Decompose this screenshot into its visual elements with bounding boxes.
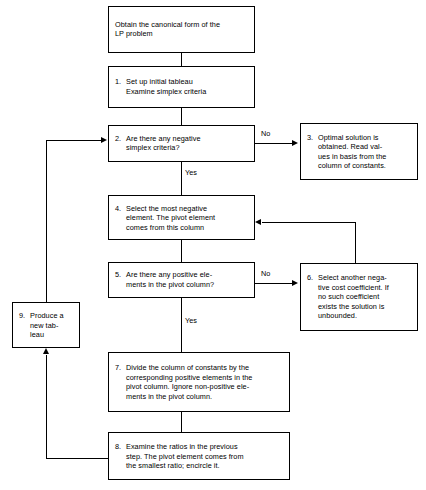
- edge-6-to-4-arrowhead: [255, 219, 261, 225]
- node-2-number: 2.: [115, 134, 121, 144]
- edge-start-to-1: [181, 53, 182, 66]
- edge-1-to-2: [181, 108, 182, 125]
- node-2-content: 2. Are there any negative simplex criter…: [109, 134, 254, 153]
- node-7[interactable]: 7. Divide the column of constants by the…: [108, 352, 290, 412]
- node-6-number: 6.: [307, 273, 313, 283]
- edge-label-yes-from-5: Yes: [185, 316, 197, 325]
- edge-4-to-5: [181, 240, 182, 262]
- edge-label-yes-from-2: Yes: [185, 168, 197, 177]
- node-1-content: 1. Set up initial tableau Examine simple…: [109, 77, 254, 96]
- edge-2-to-3: [255, 143, 293, 144]
- node-5-content: 5. Are there any positive ele- ments in …: [109, 270, 254, 289]
- node-7-number: 7.: [115, 363, 121, 373]
- node-8-content: 8. Examine the ratios in the previous st…: [109, 442, 289, 471]
- edge-8-to-9-arrowhead: [43, 348, 49, 354]
- node-5-text: Are there any positive ele- ments in the…: [115, 270, 248, 289]
- node-2-text: Are there any negative simplex criteria?: [115, 134, 248, 153]
- edge-6-to-4-horizontal: [262, 222, 356, 223]
- edge-9-to-2-arrowhead: [101, 137, 107, 143]
- node-7-content: 7. Divide the column of constants by the…: [109, 363, 289, 401]
- flowchart-canvas: Obtain the canonical form of the LP prob…: [0, 0, 426, 490]
- edge-2-to-4: [181, 162, 182, 195]
- node-3-text: Optimal solution is obtained. Read val- …: [307, 132, 411, 170]
- edge-label-no-from-5: No: [261, 269, 270, 278]
- node-start[interactable]: Obtain the canonical form of the LP prob…: [108, 6, 255, 53]
- edge-5-to-6-arrowhead: [292, 280, 298, 286]
- node-8[interactable]: 8. Examine the ratios in the previous st…: [108, 432, 290, 480]
- node-5-number: 5.: [115, 270, 121, 280]
- edge-5-to-6: [255, 283, 293, 284]
- node-9-text: Produce a new tab- leau: [19, 311, 73, 340]
- edge-9-to-2-horizontal: [46, 140, 102, 141]
- edge-5-to-7: [181, 298, 182, 352]
- node-2[interactable]: 2. Are there any negative simplex criter…: [108, 125, 255, 162]
- node-start-content: Obtain the canonical form of the LP prob…: [109, 20, 254, 39]
- edge-2-to-3-arrowhead: [292, 140, 298, 146]
- node-6-text: Select another nega- tive cost coefficie…: [307, 273, 411, 321]
- node-7-text: Divide the column of constants by the co…: [115, 363, 283, 401]
- node-9[interactable]: 9. Produce a new tab- leau: [12, 302, 80, 348]
- node-1-number: 1.: [115, 77, 121, 87]
- node-1-text: Set up initial tableau Examine simplex c…: [115, 77, 248, 96]
- node-6-content: 6. Select another nega- tive cost coeffi…: [301, 273, 417, 321]
- node-3-number: 3.: [307, 132, 313, 142]
- edge-6-to-4-vertical: [355, 222, 356, 263]
- edge-8-to-9-horizontal: [46, 458, 109, 459]
- node-9-number: 9.: [19, 311, 25, 321]
- node-4-text: Select the most negative element. The pi…: [115, 203, 248, 232]
- node-6[interactable]: 6. Select another nega- tive cost coeffi…: [300, 263, 418, 331]
- node-4-number: 4.: [115, 203, 121, 213]
- node-9-content: 9. Produce a new tab- leau: [13, 311, 79, 340]
- edge-9-to-2-vertical: [46, 140, 47, 302]
- node-3[interactable]: 3. Optimal solution is obtained. Read va…: [300, 123, 418, 180]
- edge-8-to-9-vertical: [46, 355, 47, 459]
- node-1[interactable]: 1. Set up initial tableau Examine simple…: [108, 66, 255, 108]
- node-8-number: 8.: [115, 442, 121, 452]
- node-8-text: Examine the ratios in the previous step.…: [115, 442, 283, 471]
- node-start-text: Obtain the canonical form of the LP prob…: [115, 20, 248, 39]
- edge-label-no-from-2: No: [261, 129, 270, 138]
- node-5[interactable]: 5. Are there any positive ele- ments in …: [108, 262, 255, 298]
- edge-7-to-8: [181, 412, 182, 432]
- node-4[interactable]: 4. Select the most negative element. The…: [108, 195, 255, 240]
- node-3-content: 3. Optimal solution is obtained. Read va…: [301, 132, 417, 170]
- node-4-content: 4. Select the most negative element. The…: [109, 203, 254, 232]
